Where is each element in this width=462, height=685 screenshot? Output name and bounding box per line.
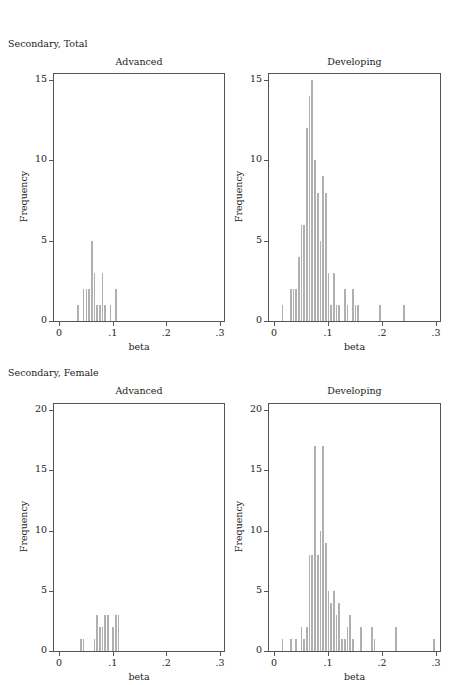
y-tick (49, 80, 53, 81)
histogram-bar (373, 639, 376, 651)
y-tick-label: 0 (242, 644, 262, 655)
histogram-bar (402, 305, 405, 321)
x-tick-label: .3 (210, 327, 230, 338)
x-tick-label: .3 (426, 657, 446, 668)
x-axis-label: beta (325, 341, 385, 352)
x-tick (113, 322, 114, 326)
panel-title: Developing (268, 56, 441, 67)
x-tick-label: 0 (49, 327, 69, 338)
y-tick-label: 10 (242, 524, 262, 535)
x-tick-label: .1 (103, 327, 123, 338)
histogram-bar (76, 305, 79, 321)
x-axis-label: beta (325, 671, 385, 682)
x-tick-label: .3 (426, 327, 446, 338)
plot-frame (53, 73, 225, 322)
y-tick (264, 410, 268, 411)
histogram-bar (281, 639, 284, 651)
x-tick-label: .2 (156, 657, 176, 668)
histogram-bar (281, 305, 284, 321)
y-tick-label: 5 (242, 584, 262, 595)
section-title-total: Secondary, Total (8, 38, 88, 49)
y-tick-label: 15 (242, 73, 262, 84)
x-axis-label: beta (109, 341, 169, 352)
panel-title: Advanced (53, 56, 225, 67)
x-tick (220, 322, 221, 326)
y-tick-label: 15 (27, 73, 47, 84)
x-tick (436, 322, 437, 326)
y-tick (49, 410, 53, 411)
x-tick-label: 0 (49, 657, 69, 668)
y-tick-label: 20 (27, 403, 47, 414)
histogram-bar (106, 615, 109, 651)
plot-frame (53, 403, 225, 652)
y-tick (264, 531, 268, 532)
plot-frame (268, 73, 441, 322)
histogram-bar (394, 627, 397, 651)
y-tick (264, 80, 268, 81)
y-tick (264, 241, 268, 242)
y-tick-label: 0 (27, 644, 47, 655)
y-tick (49, 531, 53, 532)
x-tick-label: 0 (264, 327, 284, 338)
x-tick-label: .2 (372, 327, 392, 338)
y-tick (49, 651, 53, 652)
histogram-bar (109, 305, 112, 321)
x-tick (382, 652, 383, 656)
y-tick (264, 160, 268, 161)
x-tick-label: 0 (264, 657, 284, 668)
x-tick (113, 652, 114, 656)
x-tick (166, 322, 167, 326)
x-tick-label: .1 (318, 327, 338, 338)
histogram-bar (337, 305, 340, 321)
y-tick-label: 10 (242, 153, 262, 164)
y-axis-label: Frequency (18, 486, 29, 566)
x-axis-label: beta (109, 671, 169, 682)
y-tick (49, 470, 53, 471)
y-tick (49, 160, 53, 161)
x-tick (328, 322, 329, 326)
y-tick (264, 321, 268, 322)
x-tick (59, 652, 60, 656)
x-tick-label: .1 (318, 657, 338, 668)
x-tick (166, 652, 167, 656)
y-tick-label: 10 (27, 153, 47, 164)
y-tick (264, 470, 268, 471)
histogram-bar (289, 639, 292, 651)
y-tick (49, 591, 53, 592)
histogram-bar (117, 615, 120, 651)
x-tick (220, 652, 221, 656)
x-tick (328, 652, 329, 656)
y-tick-label: 5 (27, 584, 47, 595)
x-tick (382, 322, 383, 326)
y-tick (49, 321, 53, 322)
x-tick-label: .1 (103, 657, 123, 668)
x-tick-label: .3 (210, 657, 230, 668)
histogram-bar (359, 627, 362, 651)
y-axis-label: Frequency (233, 486, 244, 566)
panel-title: Developing (268, 385, 441, 396)
histogram-bar (351, 639, 354, 651)
x-tick-label: .2 (156, 327, 176, 338)
histogram-bar (432, 639, 435, 651)
y-tick-label: 5 (242, 234, 262, 245)
x-tick (274, 652, 275, 656)
y-tick-label: 15 (27, 463, 47, 474)
x-tick (274, 322, 275, 326)
x-tick (436, 652, 437, 656)
y-tick (49, 241, 53, 242)
y-tick-label: 0 (27, 314, 47, 325)
x-tick-label: .2 (372, 657, 392, 668)
histogram-bar (103, 305, 106, 321)
plot-frame (268, 403, 441, 652)
y-tick-label: 20 (242, 403, 262, 414)
y-axis-label: Frequency (18, 156, 29, 236)
histogram-bar (114, 289, 117, 321)
x-tick (59, 322, 60, 326)
histogram-bar (356, 305, 359, 321)
y-tick (264, 591, 268, 592)
section-title-female: Secondary, Female (8, 367, 99, 378)
histogram-bar (346, 305, 349, 321)
histogram-bar (378, 305, 381, 321)
y-tick-label: 15 (242, 463, 262, 474)
y-axis-label: Frequency (233, 156, 244, 236)
